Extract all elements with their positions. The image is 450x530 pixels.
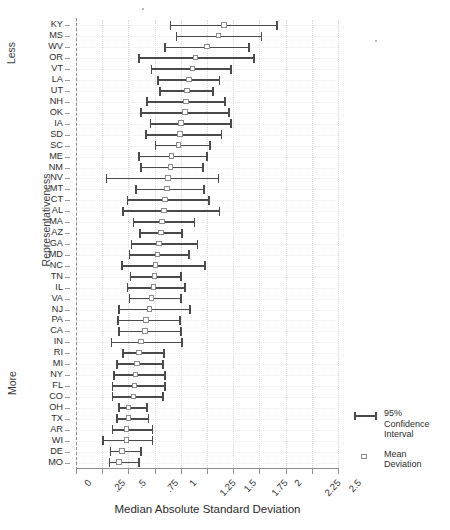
y-tick-label-ct: CT xyxy=(51,196,63,205)
y-tick-mark xyxy=(65,353,70,354)
data-row[interactable] xyxy=(76,211,338,212)
data-row[interactable] xyxy=(76,80,338,81)
data-row[interactable] xyxy=(76,146,338,147)
confidence-interval-cap xyxy=(131,240,133,249)
data-row[interactable] xyxy=(76,364,338,365)
data-row[interactable] xyxy=(76,299,338,300)
confidence-interval-cap xyxy=(150,119,152,128)
mean-deviation-marker xyxy=(158,230,164,236)
x-tick-label: 1 xyxy=(187,477,199,488)
confidence-interval-cap xyxy=(224,97,226,106)
y-tick-mark xyxy=(65,91,70,92)
y-tick-mark xyxy=(65,364,70,365)
confidence-interval-cap xyxy=(203,185,205,194)
mean-deviation-marker xyxy=(156,241,162,247)
mean-deviation-marker xyxy=(116,459,122,465)
confidence-interval-cap xyxy=(116,360,118,369)
y-tick-label-ga: GA xyxy=(50,239,63,248)
confidence-interval-cap xyxy=(133,218,135,227)
y-tick-label-ms: MS xyxy=(49,32,63,41)
legend-md-line: Deviation xyxy=(384,459,448,470)
confidence-interval-cap xyxy=(146,97,148,106)
confidence-interval-cap xyxy=(219,207,221,216)
chart-figure: Less Representativeness More KYMSWVORVTL… xyxy=(0,0,450,530)
data-row[interactable] xyxy=(76,102,338,103)
y-tick-label-mo: MO xyxy=(48,458,63,467)
confidence-interval-cap xyxy=(188,250,190,259)
data-row[interactable] xyxy=(76,310,338,311)
confidence-interval-cap xyxy=(106,174,108,183)
data-row[interactable] xyxy=(76,233,338,234)
confidence-interval-cap xyxy=(184,283,186,292)
data-row[interactable] xyxy=(76,375,338,376)
data-row[interactable] xyxy=(76,124,338,125)
data-row[interactable] xyxy=(76,452,338,453)
data-row[interactable] xyxy=(76,397,338,398)
confidence-interval-bar xyxy=(113,429,153,431)
mean-deviation-marker xyxy=(216,33,222,39)
data-row[interactable] xyxy=(76,135,338,136)
y-tick-mark xyxy=(65,189,70,190)
data-row[interactable] xyxy=(76,58,338,59)
confidence-interval-cap xyxy=(164,43,166,52)
x-tick-label: 2 xyxy=(291,477,303,488)
artifact-speck xyxy=(375,40,377,42)
data-row[interactable] xyxy=(76,277,338,278)
confidence-interval-bar xyxy=(123,352,164,354)
mean-deviation-marker xyxy=(124,426,130,432)
data-row[interactable] xyxy=(76,430,338,431)
confidence-interval-cap xyxy=(110,447,112,456)
data-row[interactable] xyxy=(76,342,338,343)
data-row[interactable] xyxy=(76,331,338,332)
data-row[interactable] xyxy=(76,157,338,158)
data-row[interactable] xyxy=(76,222,338,223)
y-tick-label-ri: RI xyxy=(54,349,63,358)
data-row[interactable] xyxy=(76,255,338,256)
y-tick-mark xyxy=(65,80,70,81)
legend-ci-line: Interval xyxy=(384,429,448,440)
data-row[interactable] xyxy=(76,386,338,387)
mean-deviation-marker xyxy=(133,372,139,378)
data-row[interactable] xyxy=(76,189,338,190)
data-row[interactable] xyxy=(76,47,338,48)
confidence-interval-cap xyxy=(176,32,178,41)
x-tick-label: 1.25 xyxy=(217,477,238,498)
confidence-interval-cap xyxy=(152,425,154,434)
mean-deviation-marker xyxy=(221,22,227,28)
y-tick-mark xyxy=(65,124,70,125)
errorbar-icon xyxy=(352,410,378,421)
confidence-interval-cap xyxy=(127,283,129,292)
data-row[interactable] xyxy=(76,288,338,289)
confidence-interval-cap xyxy=(228,108,230,117)
data-row[interactable] xyxy=(76,91,338,92)
data-row[interactable] xyxy=(76,266,338,267)
data-row[interactable] xyxy=(76,353,338,354)
data-row[interactable] xyxy=(76,36,338,37)
y-tick-label-va: VA xyxy=(51,294,63,303)
y-tick-mark xyxy=(65,244,70,245)
legend-label-confidence-interval: 95%ConfidenceInterval xyxy=(384,408,448,440)
data-row[interactable] xyxy=(76,200,338,201)
data-row[interactable] xyxy=(76,25,338,26)
confidence-interval-cap xyxy=(261,32,263,41)
data-row[interactable] xyxy=(76,69,338,70)
data-row[interactable] xyxy=(76,408,338,409)
y-tick-mark xyxy=(65,463,70,464)
y-tick-label-wv: WV xyxy=(48,43,63,52)
confidence-interval-cap xyxy=(116,414,118,423)
data-row[interactable] xyxy=(76,168,338,169)
data-row[interactable] xyxy=(76,178,338,179)
data-row[interactable] xyxy=(76,113,338,114)
data-row[interactable] xyxy=(76,320,338,321)
data-row[interactable] xyxy=(76,244,338,245)
confidence-interval-cap xyxy=(276,21,278,30)
confidence-interval-cap xyxy=(219,76,221,85)
artifact-speck xyxy=(142,8,144,10)
data-row[interactable] xyxy=(76,419,338,420)
y-tick-mark xyxy=(65,146,70,147)
data-row[interactable] xyxy=(76,463,338,464)
confidence-interval-bar xyxy=(122,265,205,267)
confidence-interval-cap xyxy=(181,338,183,347)
data-row[interactable] xyxy=(76,441,338,442)
mean-deviation-marker xyxy=(169,153,175,159)
